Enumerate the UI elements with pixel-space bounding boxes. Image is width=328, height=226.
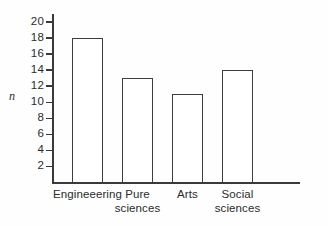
y-tick-label: 8 bbox=[24, 112, 44, 124]
bar-chart-figure: n 2468101214161820 EngineeeringPure scie… bbox=[0, 0, 328, 226]
y-tick-mark bbox=[46, 118, 52, 119]
y-tick-mark bbox=[46, 102, 52, 103]
y-tick-mark bbox=[46, 37, 52, 38]
y-tick-label-wrap: 6 bbox=[22, 128, 44, 140]
x-axis-line bbox=[52, 182, 300, 184]
y-tick-label-wrap: 18 bbox=[22, 32, 44, 44]
y-tick-label-wrap: 16 bbox=[22, 48, 44, 60]
y-tick-label-wrap: 14 bbox=[22, 64, 44, 76]
y-tick-label: 10 bbox=[24, 96, 44, 108]
bar bbox=[172, 94, 203, 182]
y-tick-mark bbox=[46, 85, 52, 86]
y-tick-label: 2 bbox=[24, 160, 44, 172]
y-tick-label: 12 bbox=[24, 80, 44, 92]
y-tick-label-wrap: 10 bbox=[22, 96, 44, 108]
bar bbox=[222, 70, 253, 182]
y-tick-label: 6 bbox=[24, 128, 44, 140]
y-tick-mark bbox=[46, 150, 52, 151]
y-tick-label-wrap: 12 bbox=[22, 80, 44, 92]
y-tick-label: 18 bbox=[24, 32, 44, 44]
y-axis-line bbox=[52, 14, 54, 184]
y-tick-mark bbox=[46, 166, 52, 167]
y-tick-label: 16 bbox=[24, 48, 44, 60]
y-tick-mark bbox=[46, 21, 52, 22]
x-category-label: Social sciences bbox=[198, 188, 278, 215]
bar bbox=[122, 78, 153, 182]
y-tick-label-wrap: 20 bbox=[22, 16, 44, 28]
y-tick-label: 14 bbox=[24, 64, 44, 76]
y-tick-mark bbox=[46, 134, 52, 135]
y-tick-label-wrap: 8 bbox=[22, 112, 44, 124]
y-axis-title: n bbox=[9, 89, 15, 104]
y-tick-label: 20 bbox=[24, 16, 44, 28]
y-tick-label: 4 bbox=[24, 144, 44, 156]
bar bbox=[72, 38, 103, 182]
y-tick-mark bbox=[46, 53, 52, 54]
y-tick-label-wrap: 4 bbox=[22, 144, 44, 156]
y-tick-mark bbox=[46, 69, 52, 70]
plot-area: n 2468101214161820 EngineeeringPure scie… bbox=[0, 0, 328, 226]
y-tick-label-wrap: 2 bbox=[22, 160, 44, 172]
